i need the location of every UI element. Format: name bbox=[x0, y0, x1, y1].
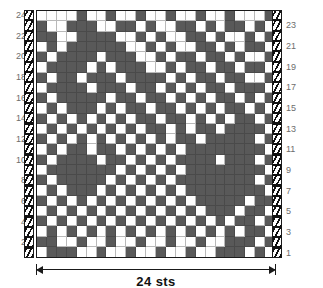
chart-cell[interactable] bbox=[146, 144, 156, 154]
chart-cell[interactable] bbox=[156, 103, 166, 113]
chart-cell[interactable] bbox=[255, 247, 265, 257]
chart-cell[interactable] bbox=[97, 134, 107, 144]
chart-cell[interactable] bbox=[235, 103, 245, 113]
chart-cell[interactable] bbox=[176, 144, 186, 154]
chart-cell[interactable] bbox=[106, 165, 116, 175]
chart-cell[interactable] bbox=[146, 206, 156, 216]
chart-cell[interactable] bbox=[77, 144, 87, 154]
chart-cell[interactable] bbox=[57, 185, 67, 195]
chart-cell[interactable] bbox=[136, 206, 146, 216]
chart-cell[interactable] bbox=[255, 124, 265, 134]
chart-cell[interactable] bbox=[57, 42, 67, 52]
chart-cell[interactable] bbox=[196, 62, 206, 72]
chart-cell[interactable] bbox=[245, 11, 255, 21]
chart-cell[interactable] bbox=[116, 196, 126, 206]
chart-cell[interactable] bbox=[186, 134, 196, 144]
chart-cell[interactable] bbox=[97, 237, 107, 247]
chart-cell[interactable] bbox=[146, 21, 156, 31]
chart-cell[interactable] bbox=[186, 247, 196, 257]
chart-cell[interactable] bbox=[57, 62, 67, 72]
chart-cell[interactable] bbox=[106, 93, 116, 103]
chart-cell[interactable] bbox=[106, 247, 116, 257]
chart-cell[interactable] bbox=[136, 226, 146, 236]
chart-cell[interactable] bbox=[176, 52, 186, 62]
chart-cell[interactable] bbox=[166, 11, 176, 21]
chart-cell[interactable] bbox=[97, 226, 107, 236]
chart-cell[interactable] bbox=[206, 144, 216, 154]
chart-cell[interactable] bbox=[196, 185, 206, 195]
chart-cell[interactable] bbox=[77, 134, 87, 144]
chart-cell[interactable] bbox=[126, 103, 136, 113]
chart-cell[interactable] bbox=[57, 93, 67, 103]
chart-cell[interactable] bbox=[166, 216, 176, 226]
chart-cell[interactable] bbox=[176, 185, 186, 195]
chart-cell[interactable] bbox=[47, 165, 57, 175]
chart-cell[interactable] bbox=[47, 237, 57, 247]
chart-cell[interactable] bbox=[106, 155, 116, 165]
chart-cell[interactable] bbox=[225, 103, 235, 113]
chart-cell[interactable] bbox=[176, 196, 186, 206]
chart-cell[interactable] bbox=[186, 73, 196, 83]
chart-cell[interactable] bbox=[245, 83, 255, 93]
chart-cell[interactable] bbox=[87, 52, 97, 62]
chart-cell[interactable] bbox=[57, 52, 67, 62]
chart-cell[interactable] bbox=[206, 124, 216, 134]
chart-cell[interactable] bbox=[196, 11, 206, 21]
chart-cell[interactable] bbox=[136, 247, 146, 257]
chart-cell[interactable] bbox=[47, 144, 57, 154]
chart-cell[interactable] bbox=[235, 196, 245, 206]
chart-cell[interactable] bbox=[156, 21, 166, 31]
chart-cell[interactable] bbox=[255, 175, 265, 185]
chart-cell[interactable] bbox=[126, 144, 136, 154]
chart-cell[interactable] bbox=[255, 196, 265, 206]
chart-cell[interactable] bbox=[196, 175, 206, 185]
chart-cell[interactable] bbox=[57, 175, 67, 185]
chart-cell[interactable] bbox=[67, 52, 77, 62]
chart-cell[interactable] bbox=[196, 216, 206, 226]
chart-cell[interactable] bbox=[47, 196, 57, 206]
chart-cell[interactable] bbox=[37, 83, 47, 93]
chart-cell[interactable] bbox=[116, 73, 126, 83]
chart-cell[interactable] bbox=[235, 226, 245, 236]
chart-cell[interactable] bbox=[166, 42, 176, 52]
chart-cell[interactable] bbox=[156, 247, 166, 257]
chart-cell[interactable] bbox=[77, 21, 87, 31]
chart-cell[interactable] bbox=[216, 93, 226, 103]
chart-cell[interactable] bbox=[146, 216, 156, 226]
chart-cell[interactable] bbox=[116, 144, 126, 154]
chart-cell[interactable] bbox=[196, 196, 206, 206]
chart-cell[interactable] bbox=[146, 247, 156, 257]
chart-cell[interactable] bbox=[146, 32, 156, 42]
chart-cell[interactable] bbox=[255, 21, 265, 31]
chart-cell[interactable] bbox=[156, 175, 166, 185]
chart-cell[interactable] bbox=[245, 32, 255, 42]
chart-cell[interactable] bbox=[37, 52, 47, 62]
chart-cell[interactable] bbox=[255, 206, 265, 216]
chart-cell[interactable] bbox=[216, 21, 226, 31]
chart-cell[interactable] bbox=[245, 165, 255, 175]
chart-cell[interactable] bbox=[156, 32, 166, 42]
chart-cell[interactable] bbox=[37, 237, 47, 247]
chart-cell[interactable] bbox=[97, 73, 107, 83]
chart-cell[interactable] bbox=[166, 62, 176, 72]
chart-cell[interactable] bbox=[87, 196, 97, 206]
chart-cell[interactable] bbox=[235, 247, 245, 257]
chart-cell[interactable] bbox=[136, 165, 146, 175]
chart-cell[interactable] bbox=[116, 185, 126, 195]
chart-cell[interactable] bbox=[216, 114, 226, 124]
chart-cell[interactable] bbox=[156, 237, 166, 247]
chart-cell[interactable] bbox=[146, 155, 156, 165]
chart-cell[interactable] bbox=[146, 134, 156, 144]
chart-cell[interactable] bbox=[106, 11, 116, 21]
chart-cell[interactable] bbox=[176, 42, 186, 52]
chart-cell[interactable] bbox=[146, 196, 156, 206]
chart-cell[interactable] bbox=[67, 206, 77, 216]
chart-cell[interactable] bbox=[235, 124, 245, 134]
chart-cell[interactable] bbox=[106, 216, 116, 226]
chart-cell[interactable] bbox=[216, 124, 226, 134]
chart-cell[interactable] bbox=[47, 62, 57, 72]
chart-cell[interactable] bbox=[77, 155, 87, 165]
chart-cell[interactable] bbox=[136, 11, 146, 21]
chart-cell[interactable] bbox=[106, 144, 116, 154]
chart-cell[interactable] bbox=[156, 155, 166, 165]
